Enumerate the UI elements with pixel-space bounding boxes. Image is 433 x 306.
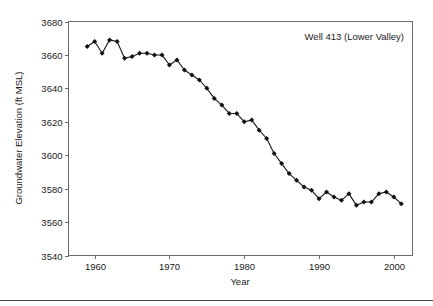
y-tick-label: 3560 <box>41 217 62 228</box>
x-axis-title: Year <box>230 276 249 287</box>
y-tick-label: 3660 <box>41 50 62 61</box>
x-tick-label: 1980 <box>234 261 255 272</box>
y-tick-label: 3580 <box>41 184 62 195</box>
chart-annotation-label: Well 413 (Lower Valley) <box>305 31 404 42</box>
x-tick-label: 2000 <box>384 261 405 272</box>
footer-divider <box>0 300 433 301</box>
groundwater-elevation-chart: 35403560358036003620364036603680 1960197… <box>0 0 433 306</box>
chart-background <box>0 0 433 306</box>
x-tick-label: 1990 <box>309 261 330 272</box>
y-tick-label: 3540 <box>41 251 62 262</box>
x-tick-label: 1960 <box>85 261 106 272</box>
x-tick-label: 1970 <box>159 261 180 272</box>
y-tick-label: 3600 <box>41 150 62 161</box>
y-tick-label: 3680 <box>41 17 62 28</box>
chart-figure: 35403560358036003620364036603680 1960197… <box>0 0 433 306</box>
y-tick-label: 3620 <box>41 117 62 128</box>
y-axis-title: Groundwater Elevation (ft MSL) <box>13 71 24 204</box>
y-tick-label: 3640 <box>41 83 62 94</box>
